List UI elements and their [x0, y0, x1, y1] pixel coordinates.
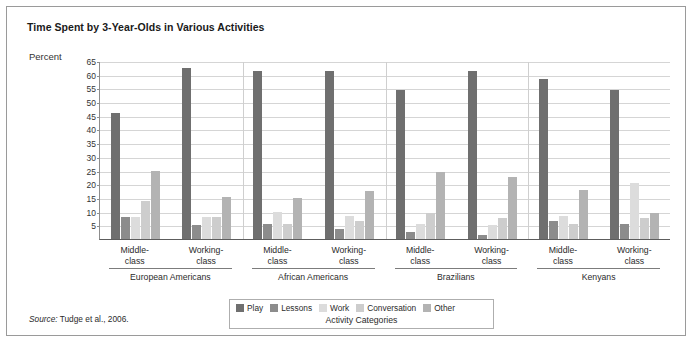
- bar-cluster-bars: [182, 62, 232, 239]
- bar: [650, 213, 659, 239]
- group-underline: [109, 268, 232, 269]
- bar-cluster-bars: [610, 62, 660, 239]
- y-axis-tick-mark: [97, 199, 100, 200]
- bar: [539, 79, 548, 239]
- x-subcategory-label: Middle-class: [99, 245, 170, 266]
- x-label-line1: Middle-: [527, 245, 598, 256]
- bar: [345, 216, 354, 239]
- x-label-line1: Working-: [313, 245, 384, 256]
- x-label-line2: class: [599, 256, 670, 267]
- source-note: Source: Tudge et al., 2006.: [29, 314, 129, 324]
- bar: [293, 198, 302, 239]
- legend-item[interactable]: Lessons: [270, 303, 312, 313]
- bar-cluster-bars: [539, 62, 589, 239]
- y-axis-tick-label: 50: [87, 98, 96, 108]
- bar: [365, 191, 374, 239]
- group-separator: [243, 62, 244, 239]
- bar-cluster: [468, 62, 518, 239]
- y-axis-tick-mark: [97, 158, 100, 159]
- bar: [263, 224, 272, 239]
- bar: [111, 113, 120, 239]
- y-axis-tick-label: 5: [91, 221, 96, 231]
- group-label: African Americans: [242, 272, 385, 282]
- legend-swatch-icon: [236, 304, 244, 312]
- bar: [549, 221, 558, 239]
- y-axis-tick-label: 45: [87, 112, 96, 122]
- bar-cluster: [610, 62, 660, 239]
- bar: [579, 190, 588, 239]
- bar-cluster: [396, 62, 446, 239]
- bar: [141, 201, 150, 239]
- y-axis-tick-label: 60: [87, 71, 96, 81]
- bar-cluster-bars: [111, 62, 161, 239]
- x-label-line2: class: [99, 256, 170, 267]
- bar: [436, 172, 445, 239]
- y-axis-tick-label: 40: [87, 125, 96, 135]
- bar: [222, 197, 231, 239]
- y-axis-tick-mark: [97, 117, 100, 118]
- group-label: European Americans: [99, 272, 242, 282]
- bar: [630, 183, 639, 239]
- bar-cluster-bars: [396, 62, 446, 239]
- x-label-line2: class: [385, 256, 456, 267]
- legend-title: Activity Categories: [230, 315, 493, 325]
- x-subcategory-label: Middle-class: [527, 245, 598, 266]
- legend-item[interactable]: Other: [423, 303, 455, 313]
- legend-item[interactable]: Conversation: [356, 303, 416, 313]
- bar: [151, 171, 160, 239]
- bar: [182, 68, 191, 239]
- y-axis-tick-mark: [97, 62, 100, 63]
- legend-label: Work: [330, 303, 349, 313]
- x-subcategory-label: Working-class: [313, 245, 384, 266]
- x-label-line1: Working-: [170, 245, 241, 256]
- x-label-line2: class: [527, 256, 598, 267]
- bar: [468, 71, 477, 239]
- bar: [488, 225, 497, 239]
- group-separator: [528, 62, 529, 239]
- x-subcategory-label: Working-class: [456, 245, 527, 266]
- bar: [498, 218, 507, 239]
- x-label-line1: Middle-: [385, 245, 456, 256]
- bar: [569, 224, 578, 239]
- y-axis-tick-label: 30: [87, 153, 96, 163]
- legend-label: Other: [434, 303, 455, 313]
- x-label-line1: Working-: [599, 245, 670, 256]
- group-underline: [395, 268, 518, 269]
- y-axis-tick-mark: [97, 226, 100, 227]
- y-axis-tick-mark: [97, 172, 100, 173]
- y-axis-tick-mark: [97, 103, 100, 104]
- bar: [396, 90, 405, 239]
- y-axis-tick-label: 10: [87, 208, 96, 218]
- bar: [273, 212, 282, 239]
- x-label-line1: Middle-: [99, 245, 170, 256]
- y-axis-tick-label: 35: [87, 139, 96, 149]
- bar: [610, 90, 619, 239]
- x-label-line1: Middle-: [242, 245, 313, 256]
- y-axis-tick-label: 20: [87, 180, 96, 190]
- chart-title: Time Spent by 3-Year-Olds in Various Act…: [27, 21, 265, 33]
- bar: [508, 177, 517, 239]
- bar: [355, 221, 364, 239]
- legend-item[interactable]: Work: [319, 303, 349, 313]
- legend-swatch-icon: [270, 304, 278, 312]
- legend-label: Play: [247, 303, 263, 313]
- group-underline: [537, 268, 660, 269]
- x-subcategory-label: Working-class: [599, 245, 670, 266]
- bar-cluster: [111, 62, 161, 239]
- source-text: Tudge et al., 2006.: [58, 314, 129, 324]
- x-label-line2: class: [170, 256, 241, 267]
- group-label: Brazilians: [385, 272, 528, 282]
- bar: [325, 71, 334, 239]
- figure-panel: Time Spent by 3-Year-Olds in Various Act…: [6, 6, 686, 336]
- bar-cluster: [325, 62, 375, 239]
- bar-cluster: [182, 62, 232, 239]
- y-axis-tick-mark: [97, 213, 100, 214]
- source-prefix: Source:: [29, 314, 58, 324]
- bar: [131, 217, 140, 239]
- bar: [335, 229, 344, 239]
- y-axis-tick-label: 15: [87, 194, 96, 204]
- bar: [406, 232, 415, 239]
- legend-item[interactable]: Play: [236, 303, 263, 313]
- y-axis-tick-mark: [97, 185, 100, 186]
- bar: [283, 224, 292, 239]
